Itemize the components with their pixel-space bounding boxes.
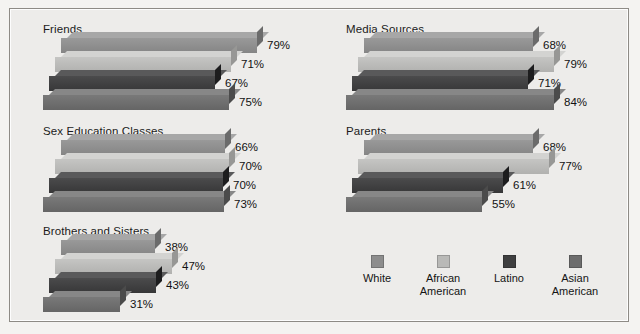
bar-row: 73% bbox=[43, 197, 230, 212]
bar-value-label: 47% bbox=[182, 260, 205, 272]
legend-swatch-icon bbox=[371, 255, 384, 268]
bar-top-face bbox=[364, 51, 566, 57]
bar-value-label: 79% bbox=[267, 39, 290, 51]
bar-side-face bbox=[554, 83, 560, 104]
bar-value-label: 71% bbox=[241, 58, 264, 70]
bar-side-face bbox=[215, 64, 221, 85]
bar-value-label: 79% bbox=[564, 58, 587, 70]
bar-side-face bbox=[120, 285, 126, 306]
bar-top-face bbox=[67, 234, 167, 240]
bar-row: 75% bbox=[43, 95, 235, 110]
bar-top-face bbox=[370, 32, 545, 38]
bar-top-face bbox=[49, 89, 241, 95]
bar-top-face bbox=[55, 70, 227, 76]
bar-value-label: 31% bbox=[130, 298, 153, 310]
bar-side-face bbox=[155, 228, 161, 249]
bar-top-face bbox=[364, 153, 561, 159]
legend-swatch-icon bbox=[569, 255, 582, 268]
legend-label: African bbox=[406, 272, 480, 285]
legend-swatch-icon bbox=[503, 255, 516, 268]
bar-side-face bbox=[223, 166, 229, 187]
bar-front-face bbox=[43, 297, 120, 312]
legend-label-second-line: American bbox=[406, 285, 480, 298]
bar-side-face bbox=[482, 185, 488, 206]
bar-side-face bbox=[229, 83, 235, 104]
bar-value-label: 77% bbox=[559, 160, 582, 172]
bar-top-face bbox=[370, 134, 545, 140]
legend-label: Latino bbox=[472, 272, 546, 285]
bar-side-face bbox=[533, 26, 539, 47]
bar-top-face bbox=[352, 191, 494, 197]
bar-side-face bbox=[156, 266, 162, 287]
bar-front-face bbox=[346, 197, 482, 212]
bar-side-face bbox=[229, 147, 235, 168]
bar-value-label: 70% bbox=[233, 179, 256, 191]
legend-label: White bbox=[340, 272, 414, 285]
bar-value-label: 70% bbox=[239, 160, 262, 172]
bar-top-face bbox=[352, 89, 566, 95]
chart-legend: WhiteAfricanAmericanLatinoAsianAmerican bbox=[340, 255, 620, 305]
bar-top-face bbox=[61, 253, 184, 259]
bar-top-face bbox=[67, 134, 237, 140]
chart-frame: Friends79%71%67%75%Sex Education Classes… bbox=[9, 8, 629, 322]
bar-side-face bbox=[528, 64, 534, 85]
bar-row: 84% bbox=[346, 95, 560, 110]
bar-top-face bbox=[67, 32, 269, 38]
bar-side-face bbox=[533, 128, 539, 149]
bar-side-face bbox=[172, 247, 178, 268]
bar-row: 31% bbox=[43, 297, 126, 312]
bar-front-face bbox=[43, 197, 224, 212]
legend-item[interactable]: Latino bbox=[472, 255, 546, 285]
bar-value-label: 43% bbox=[166, 279, 189, 291]
bar-value-label: 55% bbox=[492, 198, 515, 210]
bar-value-label: 61% bbox=[513, 179, 536, 191]
bar-value-label: 66% bbox=[235, 141, 258, 153]
legend-label-second-line: American bbox=[538, 285, 612, 298]
bar-top-face bbox=[55, 272, 168, 278]
legend-item[interactable]: AsianAmerican bbox=[538, 255, 612, 297]
bar-value-label: 67% bbox=[225, 77, 248, 89]
bar-top-face bbox=[358, 172, 515, 178]
legend-item[interactable]: AfricanAmerican bbox=[406, 255, 480, 297]
bar-value-label: 75% bbox=[239, 96, 262, 108]
bar-side-face bbox=[549, 147, 555, 168]
bar-front-face bbox=[346, 95, 554, 110]
bar-side-face bbox=[503, 166, 509, 187]
legend-swatch-icon bbox=[437, 255, 450, 268]
bar-top-face bbox=[49, 191, 236, 197]
legend-label: Asian bbox=[538, 272, 612, 285]
bar-top-face bbox=[61, 51, 243, 57]
bar-value-label: 73% bbox=[234, 198, 257, 210]
bar-row: 55% bbox=[346, 197, 488, 212]
bar-value-label: 84% bbox=[564, 96, 587, 108]
bar-front-face bbox=[43, 95, 229, 110]
bar-side-face bbox=[257, 26, 263, 47]
bar-side-face bbox=[224, 185, 230, 206]
bar-side-face bbox=[225, 128, 231, 149]
bar-top-face bbox=[55, 172, 235, 178]
bar-side-face bbox=[554, 45, 560, 66]
bar-top-face bbox=[61, 153, 241, 159]
chart-figure: Friends79%71%67%75%Sex Education Classes… bbox=[0, 0, 640, 334]
bar-top-face bbox=[358, 70, 540, 76]
legend-item[interactable]: White bbox=[340, 255, 414, 285]
bar-side-face bbox=[231, 45, 237, 66]
